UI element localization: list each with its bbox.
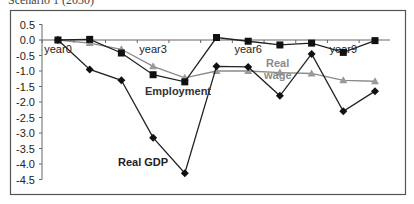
square-marker: [372, 37, 379, 44]
x-category-label: year6: [234, 43, 262, 55]
x-category-label: year3: [139, 43, 167, 55]
y-tick-label: -2.0: [16, 96, 35, 108]
y-tick-label: -3.0: [16, 127, 35, 139]
y-tick-label: -4.5: [16, 174, 35, 186]
y-tick-label: -1.0: [16, 65, 35, 77]
y-tick-label: -1.5: [16, 81, 35, 93]
square-marker: [340, 49, 347, 56]
square-marker: [86, 36, 93, 43]
y-tick-label: -4.0: [16, 158, 35, 170]
y-tick-label: 0.0: [20, 34, 35, 46]
chart-frame: [11, 11, 406, 195]
y-tick-label: -0.5: [16, 50, 35, 62]
square-marker: [308, 40, 315, 47]
y-tick-label: -2.5: [16, 112, 35, 124]
square-marker: [276, 41, 283, 48]
label-real-gdp: Real GDP: [118, 156, 168, 168]
square-marker: [245, 38, 252, 45]
square-marker: [150, 71, 157, 78]
label-real-wage: Real: [266, 57, 289, 69]
square-marker: [213, 34, 220, 41]
label-real-wage-line2: wage: [263, 69, 292, 81]
square-marker: [55, 37, 62, 44]
y-tick-label: 0.5: [20, 19, 35, 31]
label-employment: Employment: [145, 85, 211, 97]
y-tick-label: -3.5: [16, 143, 35, 155]
line-chart: 0.50.0-0.5-1.0-1.5-2.0-2.5-3.0-3.5-4.0-4…: [0, 0, 414, 204]
square-marker: [118, 50, 125, 57]
